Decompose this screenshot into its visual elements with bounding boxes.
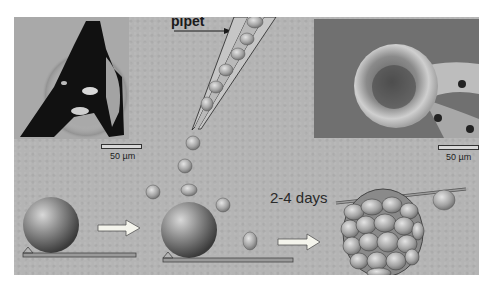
step-3-aggregate xyxy=(336,189,466,275)
diagram-graphics xyxy=(14,17,479,275)
pipet xyxy=(192,17,276,130)
pipet-arrow xyxy=(174,28,232,34)
figure-panel: 50 µm 50 µm pipet xyxy=(14,17,479,275)
arrow-step-2-to-3 xyxy=(278,234,320,250)
duration-label: 2-4 days xyxy=(270,189,328,206)
arrow-step-1-to-2 xyxy=(98,220,140,236)
